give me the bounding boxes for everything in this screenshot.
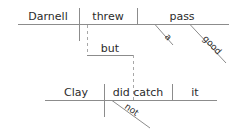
top-clause-group: Darnell threw pass a good [18, 8, 229, 63]
word-object-pass: pass [169, 10, 194, 23]
word-verb-did-catch: did catch [113, 86, 164, 99]
sentence-diagram-canvas: Darnell threw pass a good but [0, 0, 240, 131]
word-verb-threw: threw [92, 10, 123, 23]
sentence-diagram: Darnell threw pass a good but [0, 0, 240, 131]
word-adverb-not: not [123, 101, 141, 118]
word-object-it: it [191, 86, 199, 99]
word-subject-darnell: Darnell [28, 10, 67, 23]
bottom-clause-group: Clay did catch it not [45, 84, 217, 128]
word-subject-clay: Clay [64, 86, 88, 99]
word-article-a: a [163, 32, 174, 43]
word-conjunction-but: but [101, 42, 120, 55]
word-adjective-good: good [201, 33, 224, 56]
